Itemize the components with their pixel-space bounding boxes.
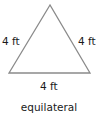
triangle-diagram: 4 ft 4 ft 4 ft equilateral (0, 0, 98, 116)
left-side-label: 4 ft (2, 36, 20, 47)
bottom-side-label: 4 ft (40, 81, 58, 92)
triangle-type-caption: equilateral (0, 102, 98, 113)
triangle-shape (0, 0, 98, 116)
right-side-label: 4 ft (78, 36, 96, 47)
